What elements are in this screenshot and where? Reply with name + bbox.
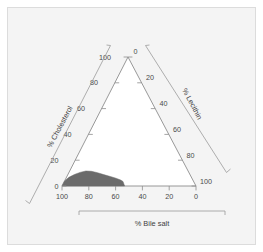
bottom-tick-label: 0 — [194, 192, 198, 201]
ternary-phase-diagram-figure: 100 80 60 40 20 0 0 20 40 60 80 100 — [0, 0, 263, 252]
right-tick-label: 60 — [173, 125, 181, 134]
right-tick-label: 20 — [146, 73, 154, 82]
bottom-axis-bracket — [79, 211, 225, 215]
bottom-axis-tick-labels: 100 80 60 40 20 0 — [56, 192, 198, 201]
bottom-tick-label: 20 — [165, 192, 173, 201]
right-tick-label: 0 — [134, 47, 138, 56]
left-axis-title: % Cholesterol — [45, 104, 75, 149]
right-axis-title: % Lecithin — [180, 87, 204, 121]
ternary-plot: 100 80 60 40 20 0 0 20 40 60 80 100 — [0, 0, 263, 252]
bottom-axis-title: % Bile salt — [135, 219, 170, 228]
bottom-tick-label: 80 — [85, 192, 93, 201]
right-tick-label: 100 — [200, 177, 212, 186]
bottom-tick-label: 100 — [56, 192, 68, 201]
right-tick-label: 40 — [160, 99, 168, 108]
bottom-tick-label: 40 — [138, 192, 146, 201]
ternary-triangle — [62, 57, 196, 186]
bottom-tick-label: 60 — [112, 192, 120, 201]
bottom-axis-ticks — [62, 186, 196, 190]
left-tick-label: 0 — [55, 182, 59, 191]
right-tick-label: 80 — [187, 151, 195, 160]
